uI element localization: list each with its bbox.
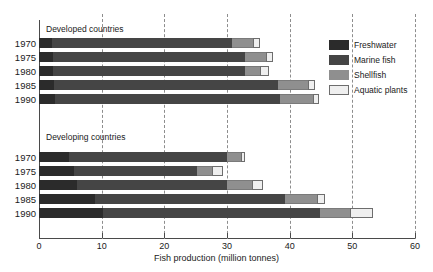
legend-item-shellfish: Shellfish <box>329 68 429 82</box>
bar-segment-marine-fish <box>52 38 232 48</box>
x-tick-mark-30 <box>227 233 228 238</box>
bar-1970-developed <box>39 38 260 48</box>
legend-item-freshwater: Freshwater <box>329 38 429 52</box>
year-label-1975-developed: 1975 <box>15 53 36 63</box>
bar-segment-aquatic-plants <box>266 52 272 62</box>
x-axis-label: Fish production (million tonnes) <box>0 253 433 263</box>
bar-segment-shellfish <box>245 66 260 76</box>
bar-1980-developing <box>39 180 263 190</box>
x-tick-label-60: 60 <box>410 241 420 252</box>
bar-segment-freshwater <box>39 66 53 76</box>
year-label-1990-developing: 1990 <box>15 209 36 219</box>
year-label-1970-developing: 1970 <box>15 153 36 163</box>
bar-segment-shellfish <box>232 38 253 48</box>
bar-segment-shellfish <box>227 152 241 162</box>
x-tick-mark-50 <box>352 233 353 238</box>
year-label-1975-developing: 1975 <box>15 167 36 177</box>
bar-segment-freshwater <box>39 38 52 48</box>
x-tick-mark-10 <box>102 233 103 238</box>
x-tick-label-30: 30 <box>222 241 232 252</box>
bar-segment-marine-fish <box>53 66 244 76</box>
legend-swatch-shellfish <box>329 70 349 80</box>
x-tick-label-0: 0 <box>36 241 41 252</box>
bar-segment-aquatic-plants <box>260 66 269 76</box>
bar-segment-freshwater <box>39 152 69 162</box>
bar-segment-marine-fish <box>95 194 285 204</box>
chart-legend: Freshwater Marine fish Shellfish Aquatic… <box>329 38 429 98</box>
year-label-1980-developed: 1980 <box>15 67 36 77</box>
bar-segment-aquatic-plants <box>308 80 315 90</box>
bar-segment-shellfish <box>278 80 308 90</box>
bar-1985-developing <box>39 194 325 204</box>
bar-segment-freshwater <box>39 80 54 90</box>
year-label-1970-developed: 1970 <box>15 39 36 49</box>
bar-segment-freshwater <box>39 94 55 104</box>
x-tick-label-50: 50 <box>347 241 357 252</box>
bar-segment-marine-fish <box>69 152 227 162</box>
legend-swatch-aquatic-plants <box>329 85 349 95</box>
year-label-1985-developing: 1985 <box>15 195 36 205</box>
bar-1980-developed <box>39 66 269 76</box>
bar-segment-aquatic-plants <box>317 194 326 204</box>
bar-segment-aquatic-plants <box>252 180 263 190</box>
year-label-1990-developed: 1990 <box>15 95 36 105</box>
bar-segment-shellfish <box>320 208 350 218</box>
bar-segment-marine-fish <box>77 180 227 190</box>
x-tick-label-10: 10 <box>97 241 107 252</box>
group-caption-developing: Developing countries <box>46 132 125 142</box>
x-tick-label-40: 40 <box>285 241 295 252</box>
x-tick-mark-0 <box>39 233 40 238</box>
legend-label-shellfish: Shellfish <box>354 70 386 80</box>
bar-segment-freshwater <box>39 194 95 204</box>
bar-segment-freshwater <box>39 52 53 62</box>
year-label-1985-developed: 1985 <box>15 81 36 91</box>
fish-production-chart: 0102030405060 Fish production (million t… <box>0 0 433 272</box>
bar-segment-freshwater <box>39 208 103 218</box>
bar-segment-aquatic-plants <box>313 94 319 104</box>
bar-segment-marine-fish <box>53 52 245 62</box>
bar-segment-shellfish <box>285 194 317 204</box>
bar-segment-shellfish <box>245 52 267 62</box>
legend-item-aquatic-plants: Aquatic plants <box>329 83 429 97</box>
x-tick-mark-60 <box>415 233 416 238</box>
legend-label-freshwater: Freshwater <box>354 40 397 50</box>
bar-segment-freshwater <box>39 180 77 190</box>
group-caption-developed: Developed countries <box>46 24 124 34</box>
x-tick-mark-40 <box>290 233 291 238</box>
bar-1990-developed <box>39 94 319 104</box>
bar-segment-marine-fish <box>55 94 279 104</box>
legend-swatch-freshwater <box>329 40 349 50</box>
bar-segment-marine-fish <box>103 208 320 218</box>
bar-segment-aquatic-plants <box>350 208 373 218</box>
bar-segment-marine-fish <box>74 166 197 176</box>
year-label-1980-developing: 1980 <box>15 181 36 191</box>
bar-segment-shellfish <box>280 94 313 104</box>
x-tick-label-20: 20 <box>159 241 169 252</box>
legend-label-aquatic-plants: Aquatic plants <box>354 85 407 95</box>
bar-segment-shellfish <box>227 180 252 190</box>
legend-label-marine-fish: Marine fish <box>354 55 396 65</box>
bar-segment-freshwater <box>39 166 74 176</box>
bar-segment-shellfish <box>197 166 212 176</box>
bar-1985-developed <box>39 80 315 90</box>
bar-1975-developing <box>39 166 223 176</box>
bar-segment-aquatic-plants <box>212 166 223 176</box>
bar-segment-marine-fish <box>54 80 278 90</box>
legend-swatch-marine-fish <box>329 55 349 65</box>
bar-1975-developed <box>39 52 273 62</box>
legend-item-marine-fish: Marine fish <box>329 53 429 67</box>
bar-1970-developing <box>39 152 245 162</box>
x-tick-mark-20 <box>164 233 165 238</box>
gridline-40 <box>290 14 291 239</box>
bar-1990-developing <box>39 208 373 218</box>
bar-segment-aquatic-plants <box>241 152 245 162</box>
bar-segment-aquatic-plants <box>253 38 260 48</box>
